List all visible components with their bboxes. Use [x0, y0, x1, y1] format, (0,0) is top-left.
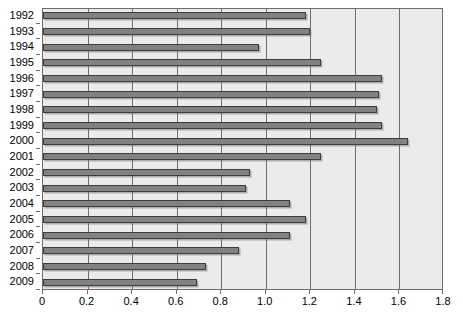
bar[interactable]: [43, 75, 382, 82]
bar-row: [43, 260, 442, 276]
y-axis-tick: [36, 179, 40, 180]
y-axis-tick-label: 2001: [10, 149, 34, 165]
x-axis-tick: [309, 290, 310, 294]
y-axis-tick: [36, 70, 40, 71]
bar[interactable]: [43, 91, 379, 98]
bar-row: [43, 228, 442, 244]
y-axis-tick-label: 1992: [10, 8, 34, 24]
y-axis-tick: [36, 273, 40, 274]
bar[interactable]: [43, 216, 306, 223]
y-axis-tick-label: 1993: [10, 24, 34, 40]
bar-row: [43, 181, 442, 197]
bar[interactable]: [43, 153, 321, 160]
x-axis-tick-label: 0.6: [168, 295, 183, 307]
y-axis-tick-label: 1999: [10, 118, 34, 134]
y-axis-tick: [36, 117, 40, 118]
bar-row: [43, 87, 442, 103]
bar-row: [43, 56, 442, 72]
y-axis-tick: [36, 85, 40, 86]
y-axis-tick-label: 2005: [10, 212, 34, 228]
x-axis-tick: [398, 290, 399, 294]
x-axis-tick: [42, 290, 43, 294]
bar-row: [43, 166, 442, 182]
bar[interactable]: [43, 185, 246, 192]
x-axis-tick-label: 0.4: [123, 295, 138, 307]
bar[interactable]: [43, 12, 306, 19]
plot-area: [42, 8, 443, 290]
x-axis-tick: [354, 290, 355, 294]
x-axis-tick-label: 1.0: [257, 295, 272, 307]
y-axis-tick: [36, 38, 40, 39]
x-axis-tick-label: 0.2: [79, 295, 94, 307]
y-axis: 1992199319941995199619971998199920002001…: [0, 8, 40, 290]
y-axis-tick: [36, 242, 40, 243]
bar-row: [43, 244, 442, 260]
bar[interactable]: [43, 138, 408, 145]
bar-row: [43, 213, 442, 229]
y-axis-tick-label: 2008: [10, 259, 34, 275]
y-axis-tick-label: 2007: [10, 243, 34, 259]
x-axis-tick: [87, 290, 88, 294]
bar-row: [43, 9, 442, 25]
y-axis-tick-label: 1998: [10, 102, 34, 118]
bar-row: [43, 197, 442, 213]
x-axis-tick-label: 1.8: [435, 295, 450, 307]
y-axis-tick: [36, 23, 40, 24]
x-axis-tick: [131, 290, 132, 294]
y-axis-tick-label: 1994: [10, 39, 34, 55]
y-axis-tick: [36, 132, 40, 133]
bar-row: [43, 119, 442, 135]
bar[interactable]: [43, 200, 290, 207]
y-axis-tick-label: 1996: [10, 71, 34, 87]
bar[interactable]: [43, 279, 197, 286]
x-axis-tick-label: 1.6: [391, 295, 406, 307]
bar-row: [43, 150, 442, 166]
y-axis-tick-label: 1995: [10, 55, 34, 71]
x-axis-tick: [220, 290, 221, 294]
bar-row: [43, 25, 442, 41]
x-axis-tick: [442, 290, 443, 294]
x-axis-tick-label: 0: [39, 295, 45, 307]
y-axis-tick: [36, 195, 40, 196]
bar-row: [43, 134, 442, 150]
y-axis-tick-label: 2002: [10, 165, 34, 181]
bar[interactable]: [43, 122, 382, 129]
y-axis-tick: [36, 148, 40, 149]
x-axis: 00.20.40.60.81.01.21.41.61.8: [42, 290, 443, 313]
y-axis-tick-label: 2006: [10, 227, 34, 243]
y-axis-tick: [36, 211, 40, 212]
y-axis-tick-label: 2000: [10, 133, 34, 149]
x-axis-tick-label: 1.4: [346, 295, 361, 307]
bar[interactable]: [43, 28, 310, 35]
x-axis-tick: [265, 290, 266, 294]
bar-row: [43, 103, 442, 119]
bar[interactable]: [43, 106, 377, 113]
y-axis-tick: [36, 258, 40, 259]
y-axis-tick-label: 1997: [10, 86, 34, 102]
y-axis-tick: [36, 101, 40, 102]
y-axis-tick-label: 2004: [10, 196, 34, 212]
y-axis-tick-label: 2009: [10, 274, 34, 290]
y-axis-tick: [36, 289, 40, 290]
bar-chart: 1992199319941995199619971998199920002001…: [0, 0, 463, 313]
bar[interactable]: [43, 59, 321, 66]
x-axis-tick-label: 0.8: [213, 295, 228, 307]
y-axis-tick: [36, 164, 40, 165]
bar-row: [43, 72, 442, 88]
x-axis-tick: [176, 290, 177, 294]
bar[interactable]: [43, 44, 259, 51]
bar[interactable]: [43, 232, 290, 239]
y-axis-tick-label: 2003: [10, 180, 34, 196]
bar-row: [43, 40, 442, 56]
bar[interactable]: [43, 263, 206, 270]
x-axis-tick-label: 1.2: [302, 295, 317, 307]
bar[interactable]: [43, 169, 250, 176]
bar-row: [43, 275, 442, 290]
y-axis-tick: [36, 226, 40, 227]
bars-layer: [43, 9, 442, 289]
bar[interactable]: [43, 247, 239, 254]
y-axis-tick: [36, 54, 40, 55]
